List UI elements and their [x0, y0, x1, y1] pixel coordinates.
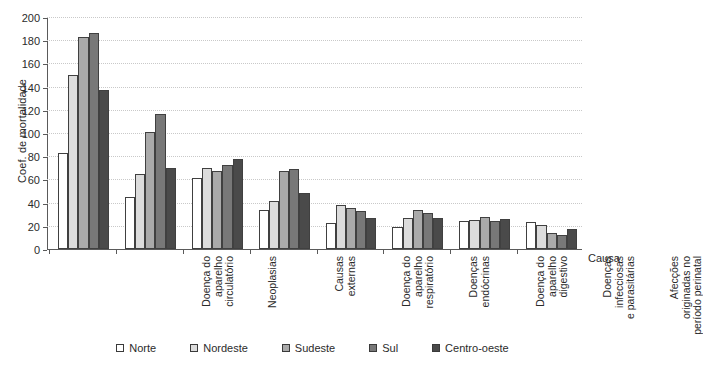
bar[interactable] — [326, 223, 336, 249]
bar[interactable] — [567, 229, 577, 249]
legend-swatch-icon — [432, 344, 440, 352]
bar[interactable] — [366, 218, 376, 249]
y-axis-tick-label: 200 — [22, 12, 47, 24]
legend-label: Nordeste — [203, 342, 248, 354]
y-axis-tick-label: 80 — [28, 151, 47, 163]
bar-group — [526, 17, 577, 249]
bar-group — [259, 17, 310, 249]
bar[interactable] — [99, 90, 109, 249]
bar[interactable] — [392, 227, 402, 249]
bar[interactable] — [480, 217, 490, 249]
x-axis-category-label: Doença do aparelho digestivo — [535, 256, 570, 372]
bar[interactable] — [469, 220, 479, 249]
x-axis-tick — [317, 249, 318, 254]
bar[interactable] — [269, 201, 279, 249]
legend-item[interactable]: Centro-oeste — [432, 342, 509, 354]
bar[interactable] — [202, 168, 212, 249]
legend-item[interactable]: Nordeste — [190, 342, 248, 354]
legend-swatch-icon — [282, 344, 290, 352]
bar[interactable] — [459, 221, 469, 249]
legend: NorteNordesteSudesteSulCentro-oeste — [0, 342, 625, 354]
legend-label: Sudeste — [295, 342, 335, 354]
x-axis-tick — [250, 249, 251, 254]
x-axis-tick — [183, 249, 184, 254]
bar[interactable] — [403, 218, 413, 249]
bar[interactable] — [89, 33, 99, 249]
y-axis-tick-label: 120 — [22, 105, 47, 117]
bar[interactable] — [289, 169, 299, 249]
bar[interactable] — [192, 178, 202, 249]
legend-item[interactable]: Norte — [116, 342, 156, 354]
bar[interactable] — [279, 171, 289, 249]
bar-group — [392, 17, 443, 249]
x-axis-category-label: Doenças endócrinas — [468, 256, 491, 372]
bar[interactable] — [526, 222, 536, 249]
bar[interactable] — [299, 193, 309, 249]
bar[interactable] — [68, 75, 78, 249]
bar[interactable] — [547, 233, 557, 249]
bar[interactable] — [145, 132, 155, 249]
plot-area: 020406080100120140160180200 — [47, 17, 582, 249]
bar[interactable] — [125, 197, 135, 249]
bar[interactable] — [557, 235, 567, 249]
y-axis-tick-label: 160 — [22, 58, 47, 70]
x-axis-category-label: Doença do aparelho circulatório — [201, 256, 236, 372]
legend-label: Norte — [129, 342, 156, 354]
legend-swatch-icon — [369, 344, 377, 352]
bar-group — [326, 17, 377, 249]
bar-group — [58, 17, 109, 249]
x-axis-category-label: Causas externas — [334, 256, 357, 372]
x-axis-category-label: Neoplasias — [267, 256, 279, 372]
bar[interactable] — [78, 37, 88, 249]
bar-group — [125, 17, 176, 249]
bar[interactable] — [413, 210, 423, 249]
bar[interactable] — [433, 218, 443, 249]
y-axis-tick-label: 0 — [34, 244, 47, 256]
x-axis-category-label: Doenças infecciosas e parasitárias — [602, 256, 637, 372]
legend-item[interactable]: Sul — [369, 342, 398, 354]
bar[interactable] — [212, 171, 222, 249]
x-axis-category-label: Afecções originadas no período perinatal — [669, 256, 703, 372]
bar[interactable] — [222, 165, 232, 249]
bar[interactable] — [346, 208, 356, 249]
legend-label: Sul — [382, 342, 398, 354]
bar[interactable] — [155, 114, 165, 249]
legend-swatch-icon — [116, 344, 124, 352]
bars-layer — [47, 17, 582, 249]
bar[interactable] — [259, 210, 269, 249]
bar[interactable] — [233, 159, 243, 249]
legend-swatch-icon — [190, 344, 198, 352]
legend-label: Centro-oeste — [445, 342, 509, 354]
y-axis-tick-label: 100 — [22, 128, 47, 140]
y-axis-tick-label: 140 — [22, 82, 47, 94]
bar[interactable] — [135, 174, 145, 249]
x-axis-category-label: Doença do aparelho respiratório — [401, 256, 436, 372]
bar[interactable] — [500, 219, 510, 249]
x-axis-tick — [383, 249, 384, 254]
y-axis-tick-label: 40 — [28, 198, 47, 210]
bar-group — [192, 17, 243, 249]
x-axis-tick — [450, 249, 451, 254]
x-axis-tick — [517, 249, 518, 254]
y-axis-tick-label: 60 — [28, 174, 47, 186]
legend-item[interactable]: Sudeste — [282, 342, 335, 354]
bar[interactable] — [166, 168, 176, 249]
bar[interactable] — [423, 213, 433, 249]
y-axis-tick-label: 20 — [28, 221, 47, 233]
bar-group — [459, 17, 510, 249]
y-axis-tick-label: 180 — [22, 35, 47, 47]
x-axis-title: Causa — [588, 252, 620, 264]
x-axis-tick — [49, 249, 50, 254]
bar[interactable] — [356, 211, 366, 249]
bar[interactable] — [336, 205, 346, 249]
bar[interactable] — [58, 153, 68, 249]
x-axis-baseline: 0 — [47, 249, 582, 250]
bar[interactable] — [490, 221, 500, 249]
x-axis-tick — [116, 249, 117, 254]
bar[interactable] — [536, 225, 546, 249]
